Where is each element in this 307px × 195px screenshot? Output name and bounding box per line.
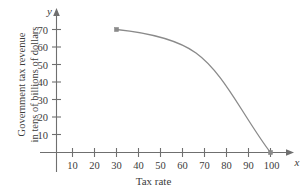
x-tick-label: 30 xyxy=(111,160,122,171)
x-axis-arrowhead xyxy=(286,149,294,156)
y-axis-title-line2: in tens of billions of dollars xyxy=(28,10,41,160)
x-tick-label: 90 xyxy=(243,160,254,171)
x-axis-variable-label: x xyxy=(294,156,300,168)
x-tick-label: 40 xyxy=(133,160,144,171)
x-axis-tick-labels: 10 20 30 40 50 60 70 80 90 100 xyxy=(67,160,279,171)
curve-start-marker xyxy=(114,27,118,31)
revenue-curve xyxy=(117,30,271,153)
x-tick-label: 70 xyxy=(199,160,210,171)
y-axis-arrowhead xyxy=(53,8,60,16)
x-tick-label: 80 xyxy=(221,160,232,171)
y-axis-title-line1: Government tax revenue xyxy=(16,10,29,160)
x-tick-label: 100 xyxy=(264,160,280,171)
x-tick-label: 50 xyxy=(155,160,166,171)
x-tick-label: 10 xyxy=(67,160,78,171)
curve-end-marker xyxy=(268,150,272,154)
laffer-curve-chart: 70 60 50 40 30 20 10 10 20 30 40 xyxy=(0,0,307,195)
x-tick-label: 60 xyxy=(177,160,188,171)
y-axis-title-wrapper: Government tax revenue in tens of billio… xyxy=(0,0,52,160)
x-axis-title: Tax rate xyxy=(0,175,307,188)
y-axis-title: Government tax revenue in tens of billio… xyxy=(16,10,41,160)
x-tick-label: 20 xyxy=(89,160,100,171)
